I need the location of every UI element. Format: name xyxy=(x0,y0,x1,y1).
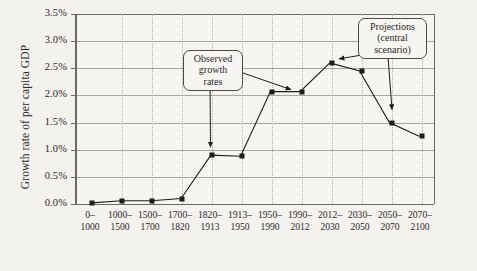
arrow-projections-to-2050-2070 xyxy=(388,57,392,110)
callout-projections-line-1: Projections xyxy=(363,21,422,32)
callout-observed-line-2: growth xyxy=(188,64,238,75)
callout-projections-central-scenario: Projections (central scenario) xyxy=(358,18,427,59)
chart-figure: Growth rate of per capita GDP 0.0%0.5%1.… xyxy=(0,0,477,271)
callout-projections-line-3: scenario) xyxy=(363,44,422,55)
callout-observed-line-3: rates xyxy=(188,76,238,87)
callout-observed-line-1: Observed xyxy=(188,53,238,64)
callout-projections-line-2: (central xyxy=(363,32,422,43)
arrow-observed-to-1990-2012 xyxy=(243,73,291,90)
callout-observed-growth-rates: Observed growth rates xyxy=(183,50,243,91)
